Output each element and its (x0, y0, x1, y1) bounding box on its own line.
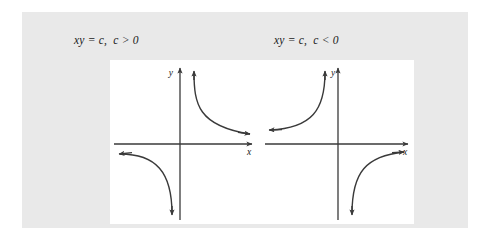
figure-card: xy = c, c > 0 xy = c, c < 0 (22, 12, 468, 228)
curve-quadrant-3 (120, 154, 172, 214)
caption-left: xy = c, c > 0 (74, 34, 139, 46)
curve-quadrant-4 (352, 152, 404, 214)
right-plot: y x (262, 60, 414, 224)
left-plot: y x (110, 60, 262, 224)
curve-quadrant-2 (270, 72, 325, 130)
x-axis-label: x (402, 147, 408, 157)
left-plot-svg: y x (110, 60, 262, 224)
curve-quadrant-1 (194, 72, 250, 134)
figure-root: xy = c, c > 0 xy = c, c < 0 (0, 0, 489, 242)
curve-arrow-left (119, 153, 132, 154)
right-plot-svg: y x (262, 60, 414, 224)
y-axis-label: y (168, 68, 174, 78)
caption-right: xy = c, c < 0 (274, 34, 339, 46)
y-axis-label: y (330, 68, 336, 78)
x-axis-label: x (246, 147, 252, 157)
curve-arrow-right (238, 132, 250, 134)
